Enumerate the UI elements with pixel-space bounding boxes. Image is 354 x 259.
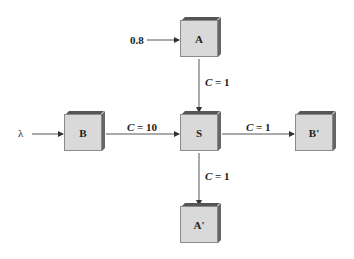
node-a-label: A <box>180 20 218 57</box>
input-b-label: λ <box>18 127 23 139</box>
edge-label-s-aprime: C = 1 <box>205 170 230 182</box>
node-b-prime-label: B' <box>295 114 333 151</box>
capacity-value: = 1 <box>253 121 270 133</box>
node-a-prime: A' <box>180 203 219 241</box>
node-b-prime-side-face <box>333 111 336 151</box>
capacity-value: = 1 <box>212 76 229 88</box>
node-a-side-face <box>218 17 221 57</box>
node-s: S <box>180 111 219 149</box>
capacity-value: = 10 <box>134 121 157 133</box>
edge-label-s-bprime: C = 1 <box>246 121 271 133</box>
node-b-label: B <box>64 114 102 151</box>
capacity-value: = 1 <box>212 170 229 182</box>
node-s-side-face <box>218 111 221 151</box>
node-a-prime-side-face <box>218 203 221 243</box>
edge-label-a-s: C = 1 <box>205 76 230 88</box>
edge-label-b-s: C = 10 <box>127 121 157 133</box>
input-a-label: 0.8 <box>130 34 144 46</box>
node-s-label: S <box>180 114 218 151</box>
node-b-side-face <box>102 111 105 151</box>
node-b-prime: B' <box>295 111 334 149</box>
node-a: A <box>180 17 219 55</box>
node-a-prime-label: A' <box>180 206 218 243</box>
node-b: B <box>64 111 103 149</box>
